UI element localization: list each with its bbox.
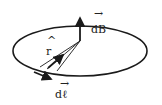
biot-savart-diagram: → dB ^ r → dℓ bbox=[0, 0, 162, 105]
r-hat-label: r bbox=[46, 45, 52, 58]
db-label: dB bbox=[91, 23, 106, 36]
dl-label: dℓ bbox=[55, 88, 67, 101]
db-arrow-accent: → bbox=[94, 7, 103, 20]
